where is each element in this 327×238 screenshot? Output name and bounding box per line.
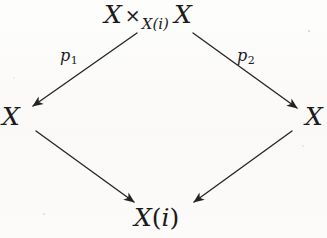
edge-label-p1: p1 — [60, 48, 77, 64]
times-operator: × — [122, 4, 142, 26]
fiber-product-second: X — [169, 0, 192, 29]
commutative-diagram-figure: X×X(i)X X X X(i) p1 p2 — [0, 0, 327, 238]
node-left-x: X — [2, 104, 20, 129]
edge-left-to-bottom — [36, 131, 134, 202]
fiber-product-base: X — [104, 0, 122, 29]
edge-label-p2-base: p — [237, 46, 247, 65]
node-fiber-product: X×X(i)X — [104, 2, 192, 27]
open-paren: ( — [152, 203, 162, 232]
node-base-object: X(i) — [134, 205, 179, 230]
edge-label-p1-base: p — [60, 46, 70, 65]
base-object-symbol: X — [134, 203, 152, 232]
edge-top-to-left — [33, 33, 137, 106]
edge-right-to-bottom — [194, 131, 292, 202]
edge-label-p2: p2 — [237, 48, 254, 64]
fiber-product-subscript: X(i) — [142, 15, 169, 33]
node-right-x: X — [305, 104, 323, 129]
base-object-index: i — [162, 203, 170, 232]
close-paren: ) — [170, 203, 180, 232]
edge-label-p2-subscript: 2 — [248, 54, 255, 67]
edge-label-p1-subscript: 1 — [71, 54, 78, 67]
edge-top-to-right — [193, 33, 297, 108]
